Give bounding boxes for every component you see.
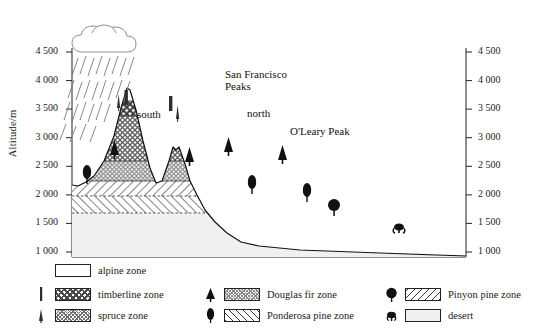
legend-item-pinyon-pine-zone: Pinyon pine zone [384, 287, 521, 302]
legend-label-timberline: timberline zone [98, 289, 164, 300]
legend-swatch-douglas [224, 288, 260, 301]
y-tick-right-2000: 2 000 [478, 188, 518, 199]
legend-item-spruce-zone: spruce zone [34, 308, 148, 323]
zone-band-desert [72, 213, 466, 259]
y-tick-right-3500: 3 500 [478, 102, 518, 113]
zone-band-spruce [72, 116, 466, 161]
diagram-canvas: San Francisco Peaks O'Leary Peak south n… [0, 0, 543, 270]
altitudinal-zonation-diagram: Altitude/m [0, 0, 543, 336]
y-tick-left-4000: 4 000 [18, 74, 58, 85]
fir-tree-icon [203, 287, 217, 302]
y-tick-left-1000: 1 000 [18, 245, 58, 256]
legend-label-alpine: alpine zone [98, 265, 146, 276]
legend-item-douglas-fir-zone: Douglas fir zone [203, 287, 337, 302]
pine-tree-icon [203, 308, 217, 323]
direction-label-north: north [247, 107, 271, 119]
zone-band-douglas-fir [72, 161, 466, 181]
peak-label-san-francisco-line1: San Francisco [225, 68, 288, 80]
y-tick-right-4000: 4 000 [478, 74, 518, 85]
zone-band-pinyon [72, 196, 466, 213]
direction-label-south: south [137, 108, 161, 120]
y-tick-left-1500: 1 500 [18, 216, 58, 227]
pinyon-tree-icon [384, 287, 398, 302]
legend-label-desert: desert [448, 310, 473, 321]
vegetation-zone-bands [72, 60, 466, 259]
peak-label-san-francisco-line2: Peaks [225, 80, 251, 92]
y-tick-left-3000: 3 000 [18, 131, 58, 142]
y-tick-left-2000: 2 000 [18, 188, 58, 199]
legend-label-douglas: Douglas fir zone [267, 289, 337, 300]
peak-label-oleary: O'Leary Peak [290, 125, 350, 137]
y-tick-left-4500: 4 500 [18, 45, 58, 56]
y-tick-right-4500: 4 500 [478, 45, 518, 56]
y-tick-right-3000: 3 000 [478, 131, 518, 142]
stunted-tree-icon [34, 287, 48, 302]
legend-label-ponderosa: Ponderosa pine zone [267, 310, 354, 321]
y-tick-right-2500: 2 500 [478, 159, 518, 170]
legend-item-alpine-zone: alpine zone [34, 264, 146, 277]
spruce-tree-icon [34, 308, 48, 323]
legend-item-timberline-zone: timberline zone [34, 287, 164, 302]
pinyon-tree-icon [328, 199, 340, 216]
y-tick-left-3500: 3 500 [18, 102, 58, 113]
y-tick-left-2500: 2 500 [18, 159, 58, 170]
legend-swatch-pinyon [405, 288, 441, 301]
cactus-icon [393, 223, 405, 233]
legend-swatch-spruce [55, 309, 91, 322]
legend-swatch-desert [405, 309, 441, 322]
legend-swatch-ponderosa [224, 309, 260, 322]
legend-item-ponderosa-pine-zone: Ponderosa pine zone [203, 308, 354, 323]
cactus-icon [384, 308, 398, 323]
legend-swatch-alpine [55, 264, 91, 277]
zone-band-ponderosa [72, 181, 466, 196]
y-tick-right-1000: 1 000 [478, 245, 518, 256]
legend-swatch-timberline [55, 288, 91, 301]
y-tick-right-1500: 1 500 [478, 216, 518, 227]
legend-label-spruce: spruce zone [98, 310, 148, 321]
legend-label-pinyon: Pinyon pine zone [448, 289, 521, 300]
legend-item-desert: desert [384, 308, 473, 323]
